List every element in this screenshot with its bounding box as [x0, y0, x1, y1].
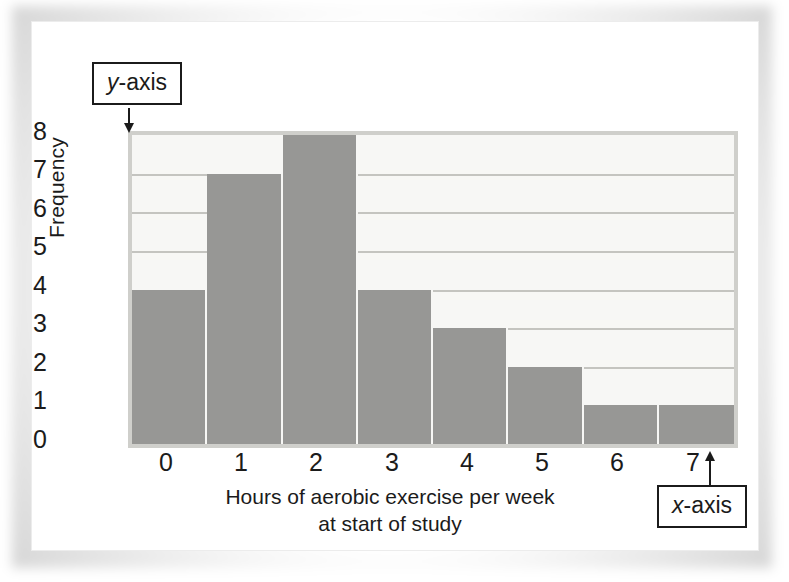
y-tick-label-7: 7 [7, 157, 47, 182]
bar-5 [508, 367, 583, 444]
y-tick-label-2: 2 [7, 350, 47, 375]
y-tick-label-1: 1 [7, 388, 47, 413]
y-axis-callout-italic: y [107, 69, 119, 95]
x-axis-callout-box: x-axis [657, 485, 747, 528]
y-tick-label-3: 3 [7, 311, 47, 336]
x-axis-callout-arrow-head-icon [705, 451, 715, 461]
x-tick-label-3: 3 [362, 450, 422, 475]
y-tick-label-0: 0 [7, 427, 47, 452]
x-axis-callout-italic: x [672, 492, 684, 518]
bar-4 [433, 328, 508, 444]
histogram-figure: Frequency 8 7 6 5 4 3 2 1 0 [0, 0, 789, 582]
bar-1 [207, 174, 282, 444]
x-axis-callout-rest: -axis [684, 492, 733, 518]
x-tick-label-6: 6 [587, 450, 647, 475]
x-tick-label-2: 2 [286, 450, 346, 475]
y-axis-callout-box: y-axis [92, 62, 182, 105]
x-tick-label-5: 5 [512, 450, 572, 475]
y-tick-label-4: 4 [7, 273, 47, 298]
x-axis-callout-arrow-line [709, 461, 711, 485]
bar-2 [283, 135, 358, 444]
y-tick-label-8: 8 [7, 119, 47, 144]
plot-inner [132, 135, 734, 444]
bar-6 [584, 405, 659, 444]
y-tick-label-5: 5 [7, 234, 47, 259]
x-axis-title-line-2: at start of study [170, 511, 610, 538]
x-tick-label-4: 4 [437, 450, 497, 475]
bar-7 [659, 405, 734, 444]
x-tick-label-0: 0 [136, 450, 196, 475]
y-axis-callout-arrow-head-icon [124, 123, 134, 133]
y-axis-callout-rest: -axis [119, 69, 168, 95]
x-axis-title-line-1: Hours of aerobic exercise per week [170, 484, 610, 511]
scanned-page-frame: Frequency 8 7 6 5 4 3 2 1 0 [0, 0, 789, 582]
bar-3 [358, 290, 433, 445]
y-axis-title: Frequency [45, 137, 69, 238]
y-tick-label-6: 6 [7, 196, 47, 221]
x-axis-title: Hours of aerobic exercise per week at st… [170, 484, 610, 538]
x-tick-label-1: 1 [211, 450, 271, 475]
bar-0 [132, 290, 207, 445]
plot-area [128, 131, 738, 448]
